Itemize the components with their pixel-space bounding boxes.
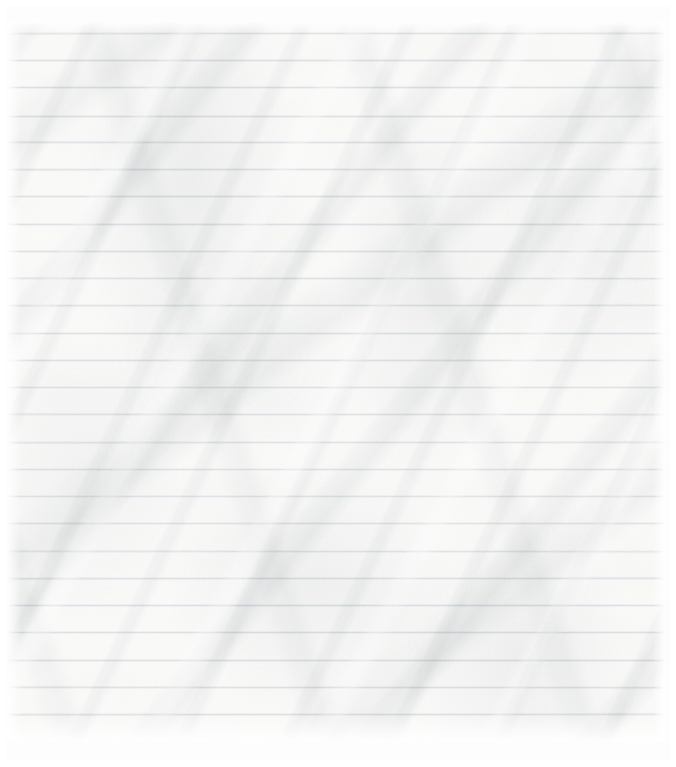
rule-line — [8, 195, 665, 196]
ruled-lines-group — [7, 21, 665, 742]
rule-line — [8, 578, 665, 579]
rule-line — [8, 551, 665, 552]
rule-line — [8, 660, 665, 661]
crease-ridge-highlights — [7, 21, 665, 742]
paper-page — [0, 0, 676, 767]
crease-band-primary — [7, 21, 665, 742]
rule-line — [8, 60, 665, 61]
rule-line — [8, 87, 665, 88]
rule-line — [8, 251, 665, 252]
rule-line — [8, 169, 665, 170]
rule-line — [8, 605, 665, 606]
rule-line — [8, 278, 665, 279]
rule-line — [8, 115, 665, 116]
rule-line — [8, 523, 665, 524]
rule-line — [8, 687, 665, 688]
rule-line — [8, 414, 665, 415]
crease-band-quaternary — [7, 21, 665, 742]
paper-sheet — [7, 21, 665, 742]
rule-line — [8, 714, 665, 715]
rule-line — [8, 442, 665, 443]
rule-line — [8, 741, 665, 742]
rule-line — [8, 632, 665, 633]
rule-line — [8, 305, 665, 306]
sheet-edge-vignette — [7, 21, 665, 742]
crease-band-tertiary — [7, 21, 665, 742]
rule-line — [8, 333, 665, 334]
rule-line — [8, 387, 665, 388]
rule-line — [8, 496, 665, 497]
rule-line — [8, 224, 665, 225]
paper-grain-texture — [7, 21, 665, 742]
rule-line — [8, 469, 665, 470]
rule-line — [8, 142, 665, 143]
rule-line — [8, 360, 665, 361]
crease-shadow-blotches — [7, 21, 665, 742]
rule-line — [8, 33, 665, 34]
crease-band-secondary — [7, 21, 665, 742]
